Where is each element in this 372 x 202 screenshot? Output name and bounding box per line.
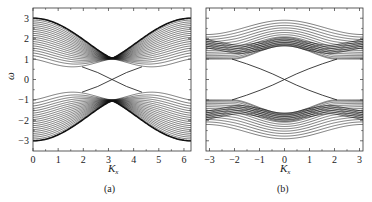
y-tick-label: 1 <box>24 54 29 65</box>
x-tick-label: −3 <box>204 154 215 165</box>
x-tick-label: 6 <box>181 154 186 165</box>
x-tick-label: 3 <box>357 154 362 165</box>
lower-bulk-band <box>33 101 191 134</box>
panel-a: 0123456 3210−1−2−3 Kx ω (a) <box>4 8 191 195</box>
panel-b-caption: (b) <box>277 183 289 195</box>
lower-bulk-band <box>33 95 191 103</box>
y-tick-label: −2 <box>18 115 29 126</box>
upper-bulk-band <box>33 26 191 59</box>
x-tick-label: 5 <box>156 154 161 165</box>
edge-state-2 <box>232 59 337 100</box>
lower-bulk-band <box>33 100 191 119</box>
y-tick-label: −1 <box>18 94 29 105</box>
x-tick-label: −2 <box>229 154 240 165</box>
panel-a-y-axis-label: ω <box>4 72 16 80</box>
edge-state-2 <box>82 67 142 92</box>
upper-bulk-band <box>33 56 191 64</box>
lower-bulk-band <box>33 101 191 137</box>
panel-b-x-axis-label: Kx <box>279 162 291 176</box>
upper-bulk-band <box>33 22 191 58</box>
lower-band-outer-edge <box>33 101 191 141</box>
panel-a-y-tick-labels: 3210−1−2−3 <box>18 13 29 147</box>
y-tick-label: −3 <box>18 135 29 146</box>
figure: 0123456 3210−1−2−3 Kx ω (a) −3−2−10123 K… <box>0 0 372 202</box>
x-tick-label: 2 <box>332 154 337 165</box>
x-tick-label: 0 <box>31 154 36 165</box>
upper-dense-band <box>206 44 363 52</box>
panel-b-band-curves <box>206 20 363 138</box>
upper-bulk-band <box>33 39 191 58</box>
x-tick-label: 1 <box>56 154 61 165</box>
panel-a-caption: (a) <box>104 183 115 195</box>
panel-b: −3−2−10123 Kx (b) <box>204 8 363 195</box>
y-tick-label: 2 <box>24 33 29 44</box>
upper-band-outer-edge <box>33 18 191 58</box>
upper-bulk-band <box>33 59 191 67</box>
lower-bulk-band <box>33 100 191 121</box>
y-tick-label: 3 <box>24 13 29 24</box>
x-tick-label: −1 <box>254 154 265 165</box>
upper-bulk-band <box>33 37 191 58</box>
lower-dense-band <box>206 107 363 115</box>
lower-bulk-band <box>33 92 191 100</box>
x-tick-label: 1 <box>307 154 312 165</box>
panel-a-x-axis-label: Kx <box>107 162 119 176</box>
x-tick-label: 4 <box>131 154 136 165</box>
upper-bulk-band <box>33 46 191 59</box>
panel-a-band-curves <box>33 18 191 141</box>
x-tick-label: 2 <box>81 154 86 165</box>
y-tick-label: 0 <box>24 74 29 85</box>
lower-bulk-band <box>33 100 191 113</box>
